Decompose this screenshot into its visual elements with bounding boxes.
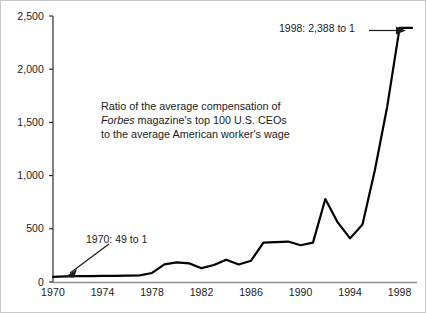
x-tick-label: 1998 [375,286,425,298]
caption-line-2-rest: magazine's top 100 U.S. CEOs [135,114,287,126]
caption-line-3: to the average American worker's wage [101,127,290,141]
x-tick-label: 1986 [226,286,276,298]
annotation-label-start: 1970: 49 to 1 [86,233,147,245]
x-tick-label: 1990 [276,286,326,298]
y-tick-label: 500 [26,222,44,234]
down-left-arrow-shaft [70,244,109,273]
caption-line-2: Forbes magazine's top 100 U.S. CEOs [101,113,290,127]
line-chart-plot [1,1,426,313]
chart-caption: Ratio of the average compensation of For… [101,99,290,142]
x-tick-label: 1978 [127,286,177,298]
y-axis-tick-marks [49,16,53,282]
annotation-label-end: 1998: 2,388 to 1 [279,22,355,34]
y-tick-label: 2,000 [17,63,44,75]
caption-forbes-italic: Forbes [101,114,135,126]
x-tick-label: 1974 [78,286,128,298]
y-tick-label: 1,000 [17,169,44,181]
x-tick-label: 1994 [325,286,375,298]
y-tick-label: 1,500 [17,116,44,128]
chart-figure: 05001,0001,5002,0002,500 197019741978198… [0,0,426,313]
x-tick-label: 1982 [177,286,227,298]
x-tick-label: 1970 [28,286,78,298]
annotation-arrow-start [65,244,109,278]
y-tick-label: 2,500 [17,10,44,22]
caption-line-1: Ratio of the average compensation of [101,99,290,113]
